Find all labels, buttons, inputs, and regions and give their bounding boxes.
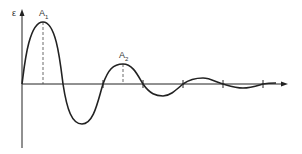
peak-label-a2: A2 bbox=[119, 51, 128, 62]
x-axis-arrow-icon bbox=[281, 82, 288, 87]
peak-label-a2-sub: 2 bbox=[125, 56, 128, 62]
peak-label-a1-sub: 1 bbox=[45, 14, 48, 20]
y-axis-arrow-icon bbox=[20, 9, 25, 16]
y-axis-label: ε bbox=[12, 9, 16, 18]
damped-oscillation-diagram bbox=[0, 0, 302, 154]
damped-wave-curve bbox=[22, 22, 276, 124]
peak-label-a1: A1 bbox=[39, 9, 48, 20]
